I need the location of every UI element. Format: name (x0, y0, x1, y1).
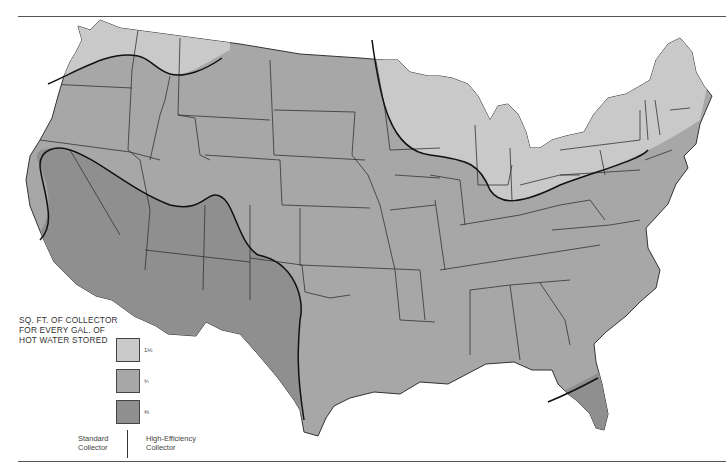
legend-swatch-medium (116, 369, 140, 393)
high-efficiency-collector-label: High-Efficiency Collector (146, 434, 196, 452)
high-efficiency-value: ⅜ (144, 409, 149, 415)
legend-title-line-2: FOR EVERY GAL. OF (19, 325, 149, 335)
high-efficiency-value: ¾ (144, 378, 149, 384)
legend-title-line-1: SQ. FT. OF COLLECTOR (19, 315, 149, 325)
standard-collector-line-1: Standard (78, 434, 108, 443)
bottom-rule (18, 461, 726, 462)
standard-collector-line-2: Collector (78, 443, 108, 452)
us-map (0, 0, 726, 471)
high-efficiency-collector-line-2: Collector (146, 443, 196, 452)
legend-column-divider (127, 430, 128, 458)
legend-swatch-light (116, 338, 140, 362)
high-efficiency-value: 1⅛ (144, 347, 152, 353)
standard-collector-label: Standard Collector (78, 434, 108, 452)
legend-swatch-dark (116, 400, 140, 424)
high-efficiency-collector-line-1: High-Efficiency (146, 434, 196, 443)
